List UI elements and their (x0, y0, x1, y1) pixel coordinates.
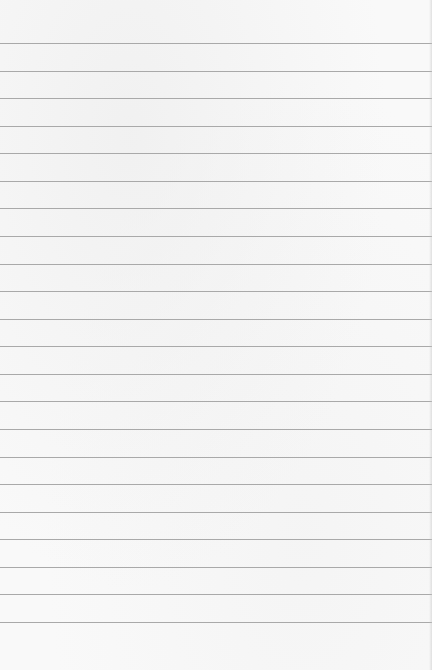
ruled-line (0, 457, 432, 458)
ruled-line (0, 622, 432, 623)
ruled-line (0, 153, 432, 154)
ruled-line (0, 181, 432, 182)
ruled-line (0, 71, 432, 72)
ruled-line (0, 594, 432, 595)
ruled-line (0, 374, 432, 375)
ruled-line (0, 43, 432, 44)
ruled-line (0, 236, 432, 237)
ruled-line (0, 429, 432, 430)
ruled-line (0, 208, 432, 209)
ruled-line (0, 264, 432, 265)
ruled-line (0, 512, 432, 513)
ruled-line (0, 539, 432, 540)
ruled-line (0, 567, 432, 568)
lined-paper (0, 0, 432, 670)
ruled-line (0, 346, 432, 347)
ruled-line (0, 401, 432, 402)
ruled-line (0, 291, 432, 292)
ruled-line (0, 126, 432, 127)
ruled-line (0, 319, 432, 320)
ruled-line (0, 98, 432, 99)
ruled-line (0, 484, 432, 485)
